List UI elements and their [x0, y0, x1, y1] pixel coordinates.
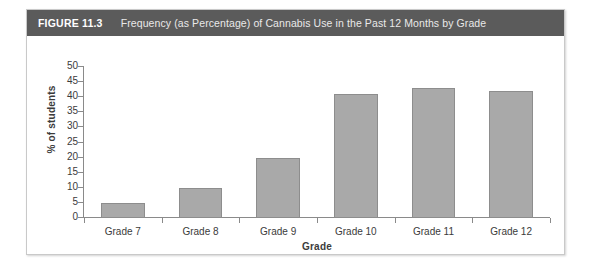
y-axis-tick-mark	[78, 202, 83, 203]
x-axis-tick-label: Grade 12	[472, 226, 550, 237]
y-axis-tick-mark	[78, 81, 83, 82]
y-axis-tick-label: 25	[67, 137, 78, 147]
x-axis-tick-label: Grade 11	[395, 226, 473, 237]
y-axis-tick-mark	[78, 96, 83, 97]
x-axis-tick-label: Grade 7	[84, 226, 162, 237]
figure-container: FIGURE 11.3 Frequency (as Percentage) of…	[26, 9, 565, 255]
y-axis-tick-mark	[78, 172, 83, 173]
bar	[412, 88, 455, 218]
x-axis-tick-mark	[395, 218, 396, 223]
y-axis-tick-label: 45	[67, 76, 78, 86]
x-axis-tick-mark	[317, 218, 318, 223]
y-axis-tick-label: 35	[67, 106, 78, 116]
x-axis-tick-label: Grade 10	[317, 226, 395, 237]
bar-group	[472, 66, 550, 218]
y-axis-tick-label: 50	[67, 61, 78, 71]
y-axis-tick-label: 40	[67, 91, 78, 101]
y-axis-tick-labels: 05101520253035404550	[53, 62, 78, 210]
y-axis-tick-mark	[78, 157, 83, 158]
x-axis-tick-label: Grade 8	[162, 226, 240, 237]
y-axis-tick-mark	[78, 111, 83, 112]
x-axis-tick-mark	[472, 218, 473, 223]
y-axis-tick-label: 30	[67, 121, 78, 131]
x-axis-tick-labels: Grade 7Grade 8Grade 9Grade 10Grade 11Gra…	[84, 226, 550, 242]
figure-header: FIGURE 11.3 Frequency (as Percentage) of…	[27, 10, 564, 36]
x-axis-tick-mark	[550, 218, 551, 223]
bar-group	[84, 66, 162, 218]
bars-layer	[84, 66, 550, 218]
y-axis-tick-mark	[78, 217, 83, 218]
y-axis-tick-mark	[78, 187, 83, 188]
y-axis-tick-label: 15	[67, 167, 78, 177]
bar-group	[239, 66, 317, 218]
bar	[489, 91, 532, 218]
bar-group	[162, 66, 240, 218]
x-axis-tick-label: Grade 9	[239, 226, 317, 237]
bar-group	[395, 66, 473, 218]
bar	[179, 188, 222, 218]
bar	[256, 158, 299, 218]
figure-title: Frequency (as Percentage) of Cannabis Us…	[121, 17, 487, 29]
x-axis-tick-mark	[162, 218, 163, 223]
x-axis-title: Grade	[84, 241, 550, 252]
x-axis-tick-mark	[239, 218, 240, 223]
y-axis-tick-mark	[78, 66, 83, 67]
y-axis-tick-label: 10	[67, 182, 78, 192]
y-axis-tick-label: 20	[67, 152, 78, 162]
figure-number-label: FIGURE 11.3	[38, 17, 103, 29]
chart-plot-area: % of students 05101520253035404550 Grade…	[27, 36, 564, 256]
bar	[334, 94, 377, 218]
x-axis-tick-mark	[84, 218, 85, 223]
bar-group	[317, 66, 395, 218]
y-axis-tick-mark	[78, 142, 83, 143]
bar	[101, 203, 144, 218]
y-axis-tick-mark	[78, 126, 83, 127]
